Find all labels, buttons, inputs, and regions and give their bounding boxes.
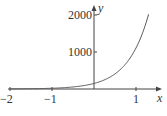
tick-x-1: 1	[133, 93, 139, 105]
tick-x-neg1: −1	[44, 93, 57, 105]
x-axis-label: x	[157, 92, 162, 104]
tick-y-1000: 1000	[68, 46, 92, 58]
tick-x-neg2: −2	[0, 93, 13, 105]
y-axis-arrow-icon	[92, 5, 97, 11]
y-axis-label: y	[98, 2, 103, 14]
tick-y-2000: 2000	[68, 9, 92, 21]
